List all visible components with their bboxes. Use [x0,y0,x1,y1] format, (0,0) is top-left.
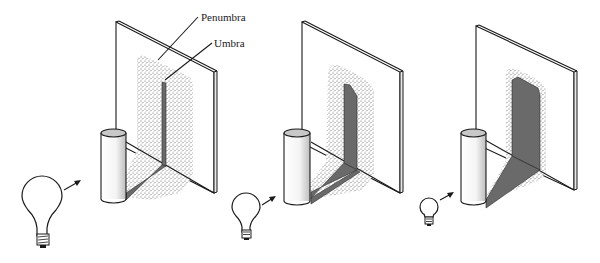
umbra-label: Umbra [214,37,245,49]
umbra-region [344,84,357,170]
umbra-region [512,77,540,170]
light-bulb-medium [232,193,260,240]
penumbra-label: Penumbra [201,11,246,23]
panel-small-source [420,25,577,226]
umbra-penumbra-diagram: Penumbra Umbra [0,0,600,263]
light-direction-arrow [262,196,276,205]
cylinder-object [461,129,486,205]
cylinder-object [101,129,126,203]
light-direction-arrow [64,180,81,190]
light-bulb-large [22,176,62,248]
umbra-region [162,82,166,166]
light-bulb-small [420,198,438,226]
panel-large-source: Penumbra Umbra [22,11,246,248]
light-direction-arrow [440,192,454,200]
cylinder-object [284,129,310,205]
panel-medium-source [232,21,403,240]
